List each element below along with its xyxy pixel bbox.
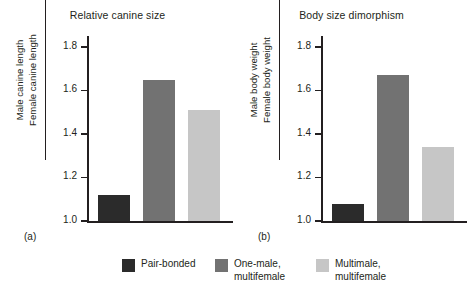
- y-tick-label-text: 1.2: [63, 170, 77, 181]
- y-tick-mark: [315, 177, 322, 178]
- fraction-bar: [279, 0, 280, 160]
- legend-item: Pair-bonded: [122, 258, 195, 272]
- panel-b-y-denominator: Female body weight: [260, 35, 272, 125]
- bar: [188, 110, 220, 221]
- panel-b-letter: (b): [258, 231, 270, 242]
- bar: [98, 195, 130, 221]
- y-tick-label-text: 1.4: [63, 127, 77, 138]
- y-tick-label-text: 1.6: [297, 83, 311, 94]
- y-tick-label-text: 1.0: [63, 214, 77, 225]
- y-tick-mark: [315, 133, 322, 134]
- y-tick-mark: [81, 90, 88, 91]
- y-tick-label-text: 1.0: [297, 214, 311, 225]
- y-tick-mark: [81, 46, 88, 47]
- legend-item: One-male, multifemale: [215, 258, 285, 283]
- y-tick-label-text: 1.8: [297, 40, 311, 51]
- y-tick-mark: [81, 220, 88, 221]
- y-tick-label-text: 1.2: [297, 170, 311, 181]
- y-tick-label-text: 1.8: [63, 40, 77, 51]
- legend-swatch-multimale-multifemale: [316, 259, 329, 272]
- legend-item: Multimale, multifemale: [316, 258, 386, 283]
- legend-swatch-pair-bonded: [122, 259, 135, 272]
- panel-a-y-axis-label: Male canine length Female canine length: [6, 0, 46, 160]
- chart-panel-a: Relative canine size Male canine length …: [0, 0, 235, 250]
- panel-b-y-numerator: Male body weight: [248, 41, 260, 120]
- legend-label: Pair-bonded: [141, 258, 195, 271]
- panel-a-y-denominator: Female canine length: [26, 32, 38, 128]
- y-tick-mark: [315, 90, 322, 91]
- figure-root: Relative canine size Male canine length …: [0, 0, 471, 301]
- legend-swatch-one-male-multifemale: [215, 259, 228, 272]
- y-tick-label-text: 1.4: [297, 127, 311, 138]
- panel-a-x-axis-line: [87, 221, 233, 223]
- y-tick-mark: [81, 133, 88, 134]
- bar: [332, 204, 364, 221]
- chart-panel-b: Body size dimorphism Male body weight Fe…: [234, 0, 469, 250]
- bar: [143, 80, 175, 221]
- fraction-bar: [45, 0, 46, 160]
- panel-a-bars: [88, 36, 233, 221]
- panel-b-y-axis-label: Male body weight Female body weight: [240, 0, 280, 160]
- panel-a-y-numerator: Male canine length: [14, 38, 26, 123]
- y-tick-mark: [315, 46, 322, 47]
- bar: [422, 147, 454, 221]
- legend-label: Multimale, multifemale: [335, 258, 386, 283]
- legend-label: One-male, multifemale: [234, 258, 285, 283]
- y-tick-label-text: 1.6: [63, 83, 77, 94]
- panel-b-x-axis-line: [321, 221, 467, 223]
- y-tick-mark: [315, 220, 322, 221]
- panel-b-bars: [322, 36, 467, 221]
- y-tick-mark: [81, 177, 88, 178]
- panel-a-letter: (a): [24, 231, 36, 242]
- legend: Pair-bonded One-male, multifemale Multim…: [0, 252, 471, 301]
- bar: [377, 75, 409, 221]
